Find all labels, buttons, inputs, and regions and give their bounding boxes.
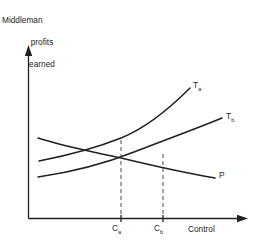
curve-label-ta-sub: a xyxy=(198,86,201,92)
curve-label-tb-sub: b xyxy=(231,117,234,123)
x-tick-label-cb: Cb xyxy=(154,224,163,235)
y-axis xyxy=(25,45,32,219)
x-axis-arrowhead xyxy=(237,215,248,222)
curve-label-ta: Ta xyxy=(193,80,201,92)
chart-container: Middleman profits earned Ta Tb P Ca xyxy=(0,0,256,248)
x-tick-cb-sub: b xyxy=(160,229,163,235)
curve-ta xyxy=(39,88,190,161)
x-tick-ca-sub: a xyxy=(118,229,121,235)
x-axis xyxy=(29,215,249,222)
x-axis-label: Control xyxy=(188,224,215,234)
curve-tb xyxy=(38,118,222,177)
curve-label-tb: Tb xyxy=(226,111,234,123)
x-tick-label-ca: Ca xyxy=(112,224,121,235)
curve-label-p: P xyxy=(219,170,225,180)
plot-area xyxy=(0,0,256,248)
curve-label-p-base: P xyxy=(219,170,225,180)
y-axis-arrowhead xyxy=(25,45,32,56)
